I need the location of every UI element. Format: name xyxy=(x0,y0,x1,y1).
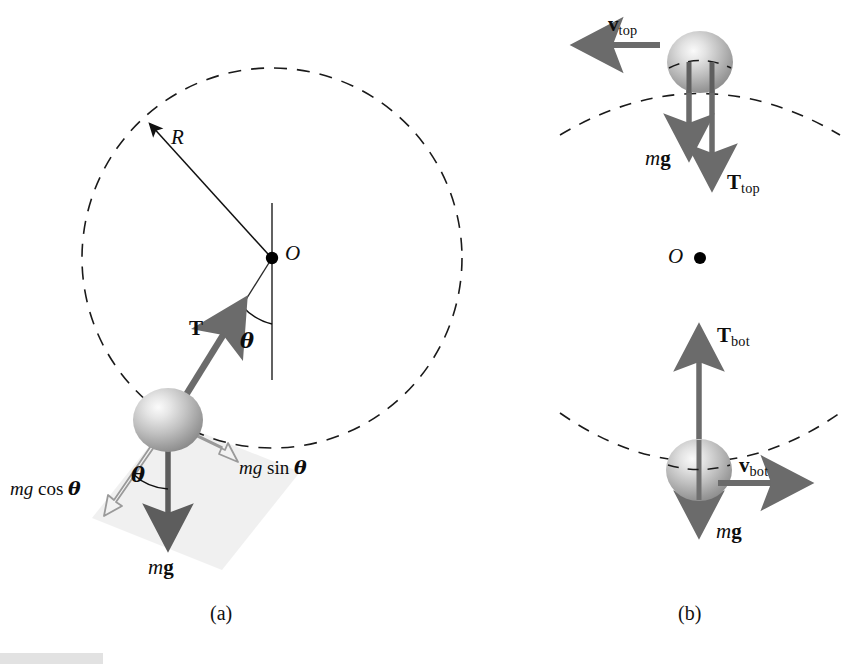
tension-top-label: Ttop xyxy=(727,172,760,195)
weight-g-a: g xyxy=(163,555,174,579)
caption-panel-b: (b) xyxy=(678,602,701,625)
velocity-top-sub: top xyxy=(619,22,638,38)
center-label-o-b: O xyxy=(668,246,683,267)
tension-top-sub: top xyxy=(741,180,760,196)
weight-bot-m: m xyxy=(716,519,731,543)
pivot-point-marker xyxy=(266,252,278,264)
pivot-angle-arc xyxy=(242,306,272,324)
tension-top-symbol: T xyxy=(727,170,741,194)
weight-top-label: mg xyxy=(645,148,671,169)
force-decomposition-shading xyxy=(92,420,300,570)
radius-label: R xyxy=(171,127,184,148)
pivot-angle-label: θ xyxy=(240,330,254,351)
panel-b-graphics xyxy=(560,31,840,532)
ball-angle-label: θ xyxy=(131,464,145,485)
mg-sin-func: sin xyxy=(267,457,289,478)
weight-top-g: g xyxy=(660,146,671,170)
mg-cos-func: cos xyxy=(38,478,63,499)
panel-a-graphics xyxy=(82,68,462,570)
mg-sin-theta-label: mg sin θ xyxy=(239,458,307,477)
tension-bot-label: Tbot xyxy=(717,325,750,348)
mg-cos-arg: θ xyxy=(68,477,81,499)
weight-label-panel-a: mg xyxy=(148,557,174,578)
weight-bot-label: mg xyxy=(716,521,742,542)
tension-bot-sub: bot xyxy=(731,333,750,349)
velocity-bot-symbol: v xyxy=(739,453,750,477)
radius-arrow xyxy=(150,124,268,254)
mg-cos-prefix: mg xyxy=(10,478,33,499)
weight-bot-g: g xyxy=(731,519,742,543)
caption-panel-a: (a) xyxy=(210,602,232,625)
figure-root: R O T θ θ mg sin θ mg cos θ mg vtop mg T… xyxy=(0,0,858,664)
tension-bot-symbol: T xyxy=(717,323,731,347)
mg-sin-arg: θ xyxy=(294,456,307,478)
weight-top-m: m xyxy=(645,146,660,170)
weight-m-a: m xyxy=(148,555,163,579)
scan-artifact-bar xyxy=(0,653,103,664)
mg-cos-theta-label: mg cos θ xyxy=(10,479,81,498)
pivot-label-o: O xyxy=(285,243,300,264)
tension-label: T xyxy=(189,318,203,339)
ball-top-panel-b xyxy=(667,31,733,93)
center-point-marker-b xyxy=(694,252,706,264)
velocity-top-label: vtop xyxy=(608,14,637,37)
mg-sin-prefix: mg xyxy=(239,457,262,478)
velocity-top-symbol: v xyxy=(608,12,619,36)
velocity-bot-sub: bot xyxy=(750,463,769,479)
velocity-bot-label: vbot xyxy=(739,455,768,478)
top-arc-dashed xyxy=(560,94,840,136)
ball-panel-a xyxy=(133,388,203,452)
